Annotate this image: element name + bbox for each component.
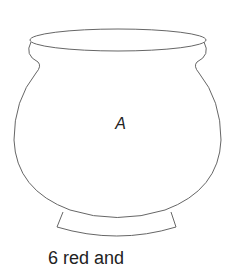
jar-illustration xyxy=(0,0,241,267)
jar-rim xyxy=(30,29,206,51)
jar-label: A xyxy=(0,115,241,133)
jar-caption: 6 red and xyxy=(48,248,124,267)
